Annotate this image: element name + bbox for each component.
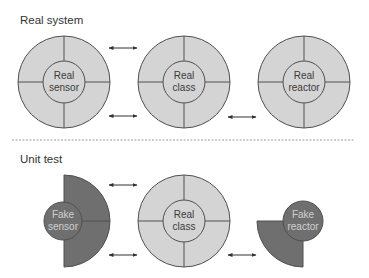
real-sensor-node: Real sensor: [18, 36, 110, 128]
fake-sensor-label-line2: sensor: [48, 221, 79, 232]
fake-reactor-node: Fake reactor: [257, 201, 323, 267]
real-sensor-label-line2: sensor: [49, 82, 80, 93]
real-sensor-label-line1: Real: [54, 70, 75, 81]
real-reactor-label-line2: reactor: [288, 82, 320, 93]
real-reactor-label-line1: Real: [294, 70, 315, 81]
real-reactor-node: Real reactor: [258, 36, 350, 128]
real-class-bottom-label-line2: class: [173, 221, 196, 232]
fake-reactor-label-line1: Fake: [292, 209, 315, 220]
real-class-label-line2: class: [173, 82, 196, 93]
fake-reactor-label-line2: reactor: [287, 221, 319, 232]
fake-sensor-node: Fake sensor: [44, 175, 110, 267]
real-class-bottom-label-line1: Real: [174, 209, 195, 220]
real-class-node-top: Real class: [138, 36, 230, 128]
section-title-unit-test: Unit test: [20, 153, 63, 165]
real-class-label-line1: Real: [174, 70, 195, 81]
diagram-canvas: Real system Real sensor Real class Real …: [0, 0, 369, 278]
section-title-real-system: Real system: [20, 14, 83, 26]
real-class-node-bottom: Real class: [138, 175, 230, 267]
fake-sensor-label-line1: Fake: [52, 209, 75, 220]
